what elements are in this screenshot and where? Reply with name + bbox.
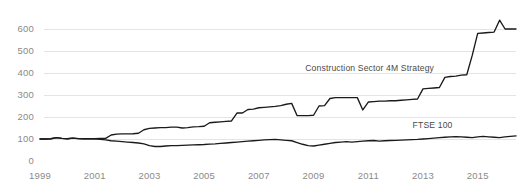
x-tick-label-2003: 2003	[138, 170, 160, 181]
y-tick-label-600: 600	[18, 23, 34, 34]
x-tick-label-2007: 2007	[248, 170, 270, 181]
y-axis-tick-labels: 0100200300400500600	[18, 23, 34, 166]
strategy-label: Construction Sector 4M Strategy	[305, 63, 434, 73]
x-tick-label-2015: 2015	[467, 170, 489, 181]
y-tick-label-300: 300	[18, 89, 34, 100]
x-tick-label-2009: 2009	[303, 170, 325, 181]
line-chart: 0100200300400500600 19992001200320052007…	[0, 0, 522, 195]
x-tick-label-2001: 2001	[84, 170, 106, 181]
y-tick-label-200: 200	[18, 111, 34, 122]
y-tick-label-100: 100	[18, 133, 34, 144]
x-tick-label-2011: 2011	[358, 170, 379, 181]
y-tick-label-500: 500	[18, 45, 34, 56]
benchmark-label: FTSE 100	[413, 120, 453, 130]
series-line-benchmark	[40, 136, 516, 147]
x-tick-label-2013: 2013	[412, 170, 434, 181]
x-axis-tick-labels: 199920012003200520072009201120132015	[29, 170, 489, 181]
y-tick-label-400: 400	[18, 67, 34, 78]
x-tick-label-1999: 1999	[29, 170, 51, 181]
x-tick-label-2005: 2005	[193, 170, 215, 181]
chart-container: 0100200300400500600 19992001200320052007…	[0, 0, 522, 195]
y-tick-label-0: 0	[29, 155, 34, 166]
